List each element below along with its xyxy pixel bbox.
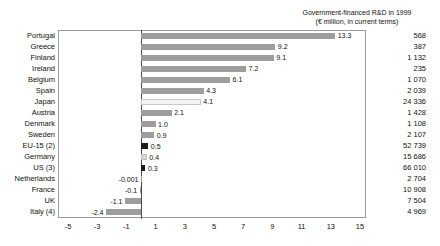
secondary-value: 1 070 (407, 75, 426, 85)
bar (141, 176, 142, 182)
bar-value-label: 13.3 (338, 32, 352, 40)
x-tick-label: 7 (241, 222, 245, 231)
secondary-value: 4 969 (407, 207, 426, 217)
category-label: EU-15 (2) (22, 141, 55, 151)
x-tick-label: 9 (270, 222, 274, 231)
bar-value-label: -2.4 (91, 209, 103, 217)
category-label: Austria (32, 108, 55, 118)
bar-value-label: 9.1 (276, 54, 286, 62)
x-tick-label: 3 (183, 222, 187, 231)
category-label: Netherlands (15, 174, 55, 184)
bar (141, 33, 335, 39)
category-axis-labels: PortugalGreeceFinlandIrelandBelgiumSpain… (0, 30, 55, 218)
secondary-value: 52 739 (403, 141, 426, 151)
category-label: Greece (30, 42, 55, 52)
secondary-value: 66 010 (403, 163, 426, 173)
x-tick-label: 13 (327, 222, 335, 231)
bar-value-label: 0.9 (157, 132, 167, 140)
bar (141, 132, 154, 138)
secondary-value: 1 428 (407, 108, 426, 118)
bar (141, 66, 246, 72)
bar (141, 77, 230, 83)
bar (141, 154, 147, 160)
bars-layer: 13.39.29.17.26.14.34.12.11.00.90.50.40.3… (58, 30, 366, 218)
secondary-value: 235 (413, 64, 426, 74)
bar-value-label: -0.1 (125, 187, 137, 195)
bar-value-label: 2.1 (174, 109, 184, 117)
bar (106, 209, 141, 215)
category-label: Sweden (28, 130, 55, 140)
secondary-value: 24 336 (403, 97, 426, 107)
secondary-value: 2 107 (407, 130, 426, 140)
category-label: Spain (36, 86, 55, 96)
bar (141, 55, 274, 61)
bar-value-label: 0.3 (148, 165, 158, 173)
x-axis: -5-3-113579111315 (58, 219, 366, 235)
category-label: Japan (35, 97, 55, 107)
secondary-value-column: 5683871 1322351 0702 03924 3361 4281 108… (372, 30, 434, 218)
chart-root: Government-financed R&D in 1999 (€ milli… (0, 0, 440, 246)
bar (141, 44, 275, 50)
x-tick-label: 5 (212, 222, 216, 231)
bar-value-label: 6.1 (233, 76, 243, 84)
secondary-value: 1 132 (407, 53, 426, 63)
x-tick-label: -3 (94, 222, 101, 231)
chart-title: Government-financed R&D in 1999 (€ milli… (276, 8, 438, 26)
secondary-value: 7 504 (407, 196, 426, 206)
bar-value-label: -0.001 (119, 176, 139, 184)
bar-value-label: 0.5 (151, 143, 161, 151)
secondary-value: 2 039 (407, 86, 426, 96)
category-label: US (3) (33, 163, 55, 173)
bar-value-label: 0.4 (149, 154, 159, 162)
secondary-value: 15 686 (403, 152, 426, 162)
bar-value-label: 7.2 (249, 65, 259, 73)
bar-value-label: 4.3 (206, 87, 216, 95)
x-tick-label: -5 (65, 222, 72, 231)
x-tick-label: 1 (154, 222, 158, 231)
category-label: Denmark (25, 119, 55, 129)
bar (141, 88, 204, 94)
bar-value-label: 9.2 (278, 43, 288, 51)
category-label: Finland (30, 53, 55, 63)
category-label: Italy (4) (30, 207, 55, 217)
secondary-value: 2 704 (407, 174, 426, 184)
bar-value-label: 1.0 (158, 121, 168, 129)
category-label: Germany (24, 152, 55, 162)
bar (140, 187, 141, 193)
category-label: Portugal (27, 31, 55, 41)
chart-title-line-1: Government-financed R&D in 1999 (276, 8, 438, 17)
secondary-value: 10 908 (403, 185, 426, 195)
bar (141, 110, 172, 116)
category-label: France (32, 185, 55, 195)
category-label: Belgium (28, 75, 55, 85)
x-tick-label: 11 (298, 222, 306, 231)
x-tick-label: -1 (123, 222, 130, 231)
x-tick-label: 15 (356, 222, 364, 231)
bar-value-label: 4.1 (203, 98, 213, 106)
chart-title-line-2: (€ million, in current terms) (276, 17, 438, 26)
bar (125, 198, 141, 204)
bar (141, 99, 201, 105)
category-label: UK (45, 196, 55, 206)
bar (141, 165, 145, 171)
bar-value-label: -1.1 (110, 198, 122, 206)
secondary-value: 1 108 (407, 119, 426, 129)
secondary-value: 568 (413, 31, 426, 41)
bar (141, 143, 148, 149)
bar (141, 121, 156, 127)
secondary-value: 387 (413, 42, 426, 52)
category-label: Ireland (32, 64, 55, 74)
